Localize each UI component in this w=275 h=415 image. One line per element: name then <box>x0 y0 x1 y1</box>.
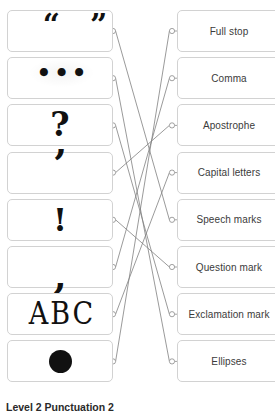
label-card-text: Ellipses <box>178 341 275 381</box>
label-card-text: Full stop <box>178 11 275 51</box>
symbol-card-ellipses[interactable]: ••• <box>7 57 113 99</box>
speech-marks-symbol: “” <box>8 5 142 45</box>
connector-node-right[interactable] <box>169 217 174 222</box>
connector-lines <box>116 31 170 361</box>
label-card-full-stop[interactable]: Full stop <box>177 10 275 52</box>
connector-node-right[interactable] <box>169 123 174 128</box>
connector-node-right[interactable] <box>169 170 174 175</box>
label-card-text: Question mark <box>178 247 275 287</box>
label-card-capital-letters[interactable]: Capital letters <box>177 152 275 194</box>
punctuation-matching-worksheet: “” ••• ? ’ ! , ABC Full stop <box>0 0 275 415</box>
label-card-exclamation-mark[interactable]: Exclamation mark <box>177 293 275 335</box>
label-card-text: Apostrophe <box>178 105 275 145</box>
connector-line[interactable] <box>116 31 170 361</box>
question-mark-symbol: ? <box>8 104 112 144</box>
exclamation-mark-symbol: ! <box>8 200 112 240</box>
worksheet-caption: Level 2 Punctuation 2 <box>6 401 114 413</box>
label-card-ellipses[interactable]: Ellipses <box>177 340 275 382</box>
symbol-card-speech-marks[interactable]: “” <box>7 10 113 52</box>
symbol-card-apostrophe[interactable]: ’ <box>7 152 113 194</box>
label-card-text: Speech marks <box>178 200 275 240</box>
label-card-text: Capital letters <box>178 153 275 193</box>
connector-line[interactable] <box>116 125 170 172</box>
connector-node-right[interactable] <box>169 264 174 269</box>
label-card-text: Comma <box>178 58 275 98</box>
symbol-card-full-stop[interactable] <box>7 340 113 382</box>
full-stop-symbol <box>8 341 112 381</box>
symbol-card-capital-letters[interactable]: ABC <box>7 293 113 335</box>
connector-node-right[interactable] <box>169 359 174 364</box>
connector-node-right[interactable] <box>169 76 174 81</box>
filled-circle-icon <box>49 350 72 373</box>
capital-letters-symbol: ABC <box>8 289 114 336</box>
label-card-comma[interactable]: Comma <box>177 57 275 99</box>
label-card-question-mark[interactable]: Question mark <box>177 246 275 288</box>
connector-line[interactable] <box>116 125 170 314</box>
connector-line[interactable] <box>116 78 170 267</box>
label-card-text: Exclamation mark <box>178 294 275 334</box>
apostrophe-symbol: ’ <box>8 144 112 184</box>
connector-node-right[interactable] <box>169 312 174 317</box>
ellipses-symbol: ••• <box>8 53 115 93</box>
symbol-card-exclamation-mark[interactable]: ! <box>7 199 113 241</box>
symbol-card-comma[interactable]: , <box>7 246 113 288</box>
label-card-speech-marks[interactable]: Speech marks <box>177 199 275 241</box>
connector-line[interactable] <box>116 31 170 220</box>
connector-node-right[interactable] <box>169 28 174 33</box>
label-card-apostrophe[interactable]: Apostrophe <box>177 104 275 146</box>
